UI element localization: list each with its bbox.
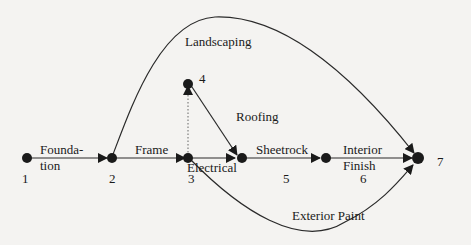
edge-label-interior-finish-1: Interior [343, 143, 382, 157]
node-label-4: 4 [199, 72, 206, 86]
node-7 [412, 152, 424, 164]
edge-label-interior-finish-2: Finish [343, 159, 376, 173]
edge-label-roofing: Roofing [236, 110, 279, 124]
edge-roofing [190, 84, 237, 155]
edge-label-electrical: Electrical [187, 161, 237, 175]
edge-landscaping [112, 17, 414, 157]
node-label-6: 6 [360, 172, 367, 186]
node-5 [237, 153, 247, 163]
edge-label-sheetrock: Sheetrock [256, 143, 308, 157]
edge-label-landscaping: Landscaping [185, 35, 251, 49]
node-label-5: 5 [283, 172, 290, 186]
node-1 [22, 153, 32, 163]
node-2 [107, 153, 117, 163]
node-label-7: 7 [437, 155, 444, 169]
edge-label-foundation-1: Founda- [40, 143, 83, 157]
node-label-2: 2 [109, 172, 116, 186]
node-label-1: 1 [22, 172, 29, 186]
edge-label-foundation-2: tion [40, 159, 60, 173]
node-4 [183, 79, 193, 89]
node-6 [321, 153, 331, 163]
edge-label-exterior-paint: Exterior Paint [292, 209, 365, 223]
edge-label-frame: Frame [135, 143, 168, 157]
